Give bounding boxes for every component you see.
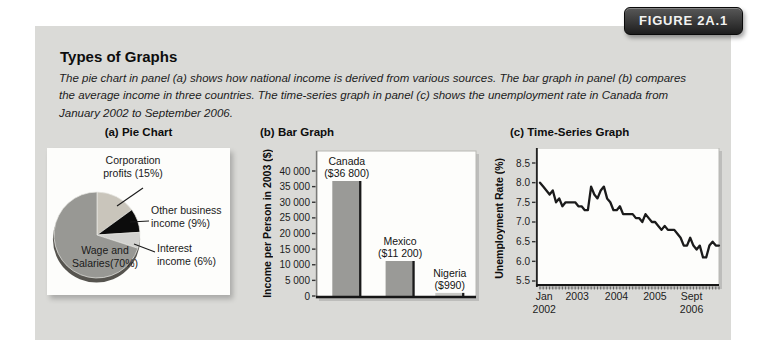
bar-country-label: Nigeria xyxy=(433,267,466,279)
pie-label-line: Salaries(70%) xyxy=(63,257,147,270)
figure-caption: The pie chart in panel (a) shows how nat… xyxy=(59,70,703,122)
panel-time-series: (c) Time-Series Graph Unemployment Rate … xyxy=(492,126,728,322)
time-series-svg: 5.56.06.57.07.58.08.5Jan2002200320042005… xyxy=(506,148,722,322)
line-ytick-label: 8.0 xyxy=(516,177,530,188)
bar-ytick-label: 10 000 xyxy=(279,259,310,270)
panels-row: (a) Pie Chart Corporation profits (15 xyxy=(47,126,728,322)
line-xtick-label: Sept xyxy=(681,290,703,302)
line-xtick-label: 2002 xyxy=(533,303,557,315)
line-xtick-label: 2004 xyxy=(605,290,629,302)
line-ytick-label: 7.5 xyxy=(516,197,530,208)
line-ytick-label: 7.0 xyxy=(516,216,530,227)
pie-label-line: Interest xyxy=(157,242,227,255)
line-xtick-label: Jan xyxy=(536,290,553,302)
bar-country-label: Mexico xyxy=(383,235,416,247)
pie-label-wage-and-salaries: Wage and Salaries(70%) xyxy=(63,244,147,270)
pointer-line-corporation-profits xyxy=(117,188,143,206)
textbook-figure-page: FIGURE 2A.1 Types of Graphs The pie char… xyxy=(0,0,758,357)
bar-ytick-label: 5 000 xyxy=(285,275,310,286)
bar-ytick-label: 30 000 xyxy=(279,197,310,208)
pie-label-line: income (9%) xyxy=(151,217,229,230)
panel-time-series-title: (c) Time-Series Graph xyxy=(510,126,728,138)
line-y-axis-label: Unemployment Rate (%) xyxy=(492,148,506,288)
bar-canada xyxy=(332,181,361,296)
bar-y-axis-label: Income per Person in 2003 ($) xyxy=(260,148,274,298)
pie-label-line: Corporation xyxy=(77,154,189,167)
panel-pie: (a) Pie Chart Corporation profits (15 xyxy=(47,126,232,295)
figure-badge: FIGURE 2A.1 xyxy=(624,7,743,35)
bar-country-label: Canada xyxy=(328,155,365,167)
line-ytick-label: 8.5 xyxy=(516,158,530,169)
bar-value-label: ($990) xyxy=(435,279,465,291)
bar-ytick-label: 20 000 xyxy=(279,228,310,239)
line-xtick-label: 2006 xyxy=(680,303,704,315)
pie-label-corporation-profits: Corporation profits (15%) xyxy=(77,154,189,180)
panel-bar: (b) Bar Graph Income per Person in 2003 … xyxy=(260,126,482,306)
line-plot-area xyxy=(536,148,719,286)
bar-ytick-label: 25 000 xyxy=(279,212,310,223)
pie-label-line: Wage and xyxy=(63,244,147,257)
panel-pie-title: (a) Pie Chart xyxy=(47,126,230,138)
bar-ytick-label: 15 000 xyxy=(279,244,310,255)
figure-title: Types of Graphs xyxy=(60,48,177,65)
line-xtick-label: 2005 xyxy=(643,290,667,302)
line-ytick-label: 6.5 xyxy=(516,236,530,247)
bar-value-label: ($11 200) xyxy=(378,247,422,259)
pie-chart-box: Corporation profits (15%) Other business… xyxy=(47,148,230,295)
bar-ytick-label: 0 xyxy=(304,291,310,302)
pie-label-line: profits (15%) xyxy=(77,167,189,180)
bar-chart-svg: 05 00010 00015 00020 00025 00030 00035 0… xyxy=(274,148,480,306)
bar-mexico xyxy=(386,261,415,296)
pie-label-other-business-income: Other business income (9%) xyxy=(151,204,229,230)
bar-ytick-label: 35 000 xyxy=(279,181,310,192)
line-ytick-label: 5.5 xyxy=(516,275,530,286)
line-xtick-label: 2003 xyxy=(565,290,589,302)
bar-nigeria xyxy=(435,293,464,296)
bar-value-label: ($36 800) xyxy=(324,167,369,179)
figure-box: Types of Graphs The pie chart in panel (… xyxy=(35,26,731,340)
bar-edge-mexico xyxy=(412,261,414,296)
bar-ytick-label: 40 000 xyxy=(279,166,310,177)
pie-label-line: income (6%) xyxy=(157,255,227,268)
pie-label-line: Other business xyxy=(151,204,229,217)
bar-edge-nigeria xyxy=(462,293,464,296)
pie-label-interest-income: Interest income (6%) xyxy=(157,242,227,268)
panel-bar-title: (b) Bar Graph xyxy=(260,126,482,138)
line-ytick-label: 6.0 xyxy=(516,256,530,267)
bar-edge-canada xyxy=(359,181,361,296)
